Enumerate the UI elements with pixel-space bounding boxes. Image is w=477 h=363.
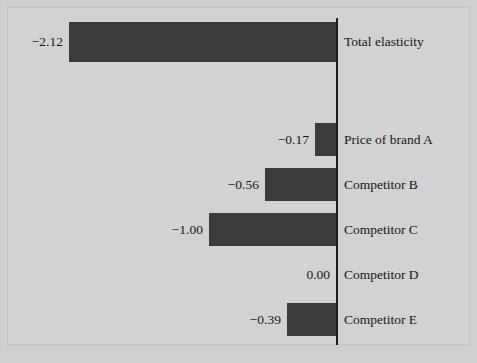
plot-area: −2.12 Total elasticity −0.17 Price of br… — [0, 0, 477, 363]
bar-row: −1.00 Competitor C — [0, 213, 477, 246]
bar-value-label: −0.17 — [249, 132, 309, 148]
bar-category-label: Price of brand A — [344, 132, 433, 148]
bar-value-label: −2.12 — [3, 34, 63, 50]
bar-value-label: −0.56 — [199, 177, 259, 193]
bar-row: −0.56 Competitor B — [0, 168, 477, 201]
elasticity-bar-chart: −2.12 Total elasticity −0.17 Price of br… — [0, 0, 477, 363]
bar-total-elasticity — [69, 22, 336, 62]
bar-row: 0.00 Competitor D — [0, 258, 477, 291]
bar-row: −0.39 Competitor E — [0, 303, 477, 336]
bar-category-label: Competitor B — [344, 177, 418, 193]
bar-value-label: −0.39 — [221, 312, 281, 328]
bar-category-label: Total elasticity — [344, 34, 424, 50]
bar-value-label: −1.00 — [143, 222, 203, 238]
bar-value-label: 0.00 — [270, 267, 330, 283]
bar-category-label: Competitor E — [344, 312, 417, 328]
bar-row: −2.12 Total elasticity — [0, 22, 477, 62]
bar-price-of-brand-a — [315, 123, 336, 156]
bar-row: −0.17 Price of brand A — [0, 123, 477, 156]
bar-category-label: Competitor D — [344, 267, 419, 283]
bar-competitor-e — [287, 303, 336, 336]
bar-competitor-c — [209, 213, 336, 246]
bar-competitor-b — [265, 168, 336, 201]
bar-category-label: Competitor C — [344, 222, 418, 238]
